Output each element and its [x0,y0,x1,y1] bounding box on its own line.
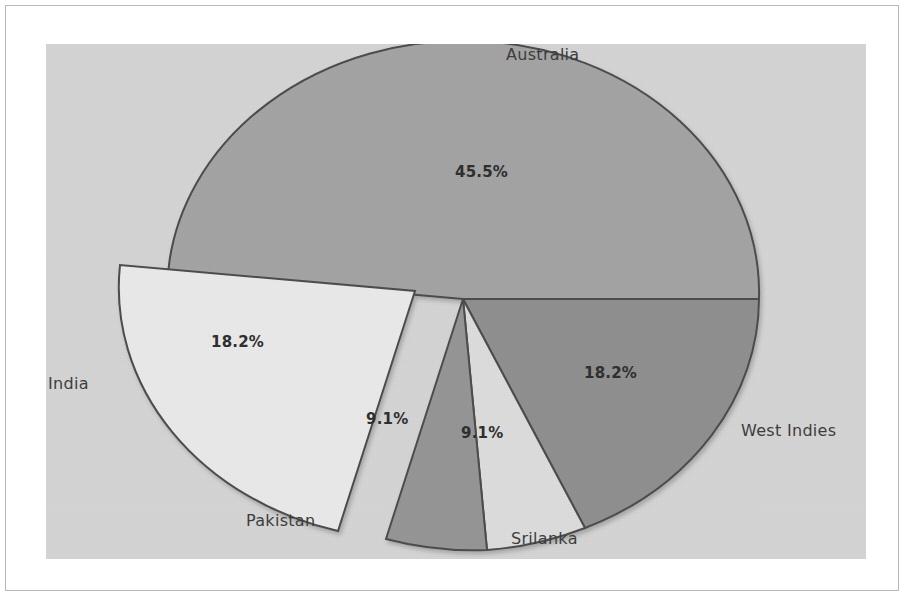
pie-slice-india[interactable] [119,265,415,531]
category-label-srilanka: Srilanka [511,529,578,548]
category-label-australia: Australia [506,45,579,64]
slice-value-australia: 45.5% [455,163,508,181]
pie-chart-panel: 45.5% 18.2% 9.1% 9.1% 18.2% Australia We… [46,44,866,559]
category-label-pakistan: Pakistan [246,511,315,530]
slice-value-west-indies: 18.2% [584,364,637,382]
category-label-india: India [48,374,89,393]
category-label-west-indies: West Indies [741,421,836,440]
slice-value-pakistan: 9.1% [366,410,408,428]
slice-value-india: 18.2% [211,333,264,351]
slice-value-srilanka: 9.1% [461,424,503,442]
outer-frame: 45.5% 18.2% 9.1% 9.1% 18.2% Australia We… [5,5,899,591]
pie-chart-graphic [46,44,866,559]
